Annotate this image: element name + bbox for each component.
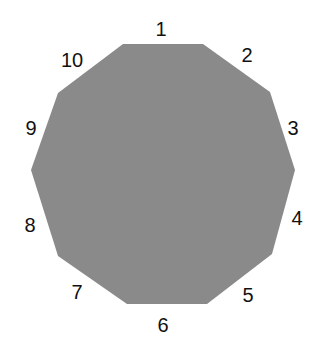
side-label-6: 6 bbox=[157, 314, 168, 336]
side-label-2: 2 bbox=[241, 44, 252, 66]
side-label-7: 7 bbox=[71, 281, 82, 303]
side-label-5: 5 bbox=[242, 284, 253, 306]
side-label-10: 10 bbox=[61, 49, 83, 71]
side-label-9: 9 bbox=[25, 117, 36, 139]
decagon-diagram: 12345678910 bbox=[0, 0, 312, 350]
side-label-1: 1 bbox=[155, 18, 166, 40]
side-label-3: 3 bbox=[287, 117, 298, 139]
side-label-8: 8 bbox=[24, 214, 35, 236]
side-label-4: 4 bbox=[291, 207, 302, 229]
decagon-shape bbox=[31, 44, 295, 304]
